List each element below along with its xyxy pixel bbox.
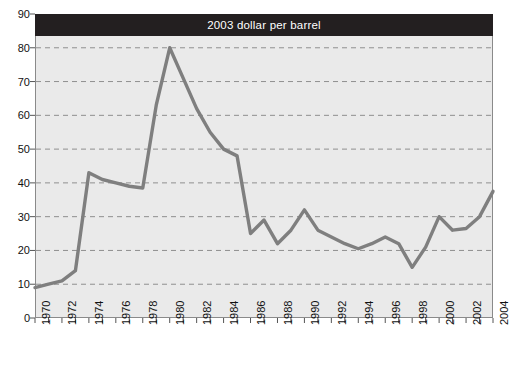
x-axis-tick-label: 1988 xyxy=(282,301,294,325)
x-axis-tick-label: 1996 xyxy=(390,301,402,325)
x-axis-tick-label: 1990 xyxy=(309,301,321,325)
x-axis-tick-label: 1980 xyxy=(174,301,186,325)
x-axis-tick-label: 2002 xyxy=(471,301,483,325)
x-axis-tick-label: 1970 xyxy=(40,301,52,325)
x-axis-tick-label: 1978 xyxy=(147,301,159,325)
x-axis-tick-label: 1998 xyxy=(417,301,429,325)
x-axis-tick-label: 1972 xyxy=(66,301,78,325)
x-axis-labels: 1970197219741976197819801982198419861988… xyxy=(0,0,510,375)
x-axis-tick-label: 1986 xyxy=(255,301,267,325)
x-axis-tick-label: 1982 xyxy=(201,301,213,325)
x-axis-tick-label: 1974 xyxy=(93,301,105,325)
x-axis-tick-label: 2004 xyxy=(498,301,510,325)
x-axis-tick-label: 2000 xyxy=(444,301,456,325)
oil-price-chart: 2003 dollar per barrel 01020304050607080… xyxy=(0,0,510,375)
x-axis-tick-label: 1984 xyxy=(228,301,240,325)
x-axis-tick-label: 1992 xyxy=(336,301,348,325)
x-axis-tick-label: 1994 xyxy=(363,301,375,325)
x-axis-tick-label: 1976 xyxy=(120,301,132,325)
